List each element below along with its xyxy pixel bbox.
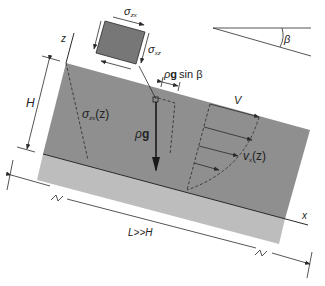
gravity-component-label: ρgsin β — [163, 68, 203, 80]
angle-arc — [280, 28, 283, 47]
element-top-arrow — [113, 17, 144, 25]
velocity-profile-label: vx(z) — [243, 149, 266, 163]
length-tick-right — [307, 252, 312, 278]
break-mark-right — [255, 250, 267, 256]
gravity-label: ρg — [134, 127, 149, 141]
angle-label: β — [283, 33, 291, 45]
z-axis-label: z — [60, 33, 66, 44]
angle-inclined-line — [213, 28, 311, 56]
z-axis-line — [66, 33, 74, 63]
diagram-canvas: x z H L>>H β σzx σxz ρg ρgsin β — [0, 0, 325, 286]
element-side-stress-label: σxz — [148, 43, 161, 56]
element-bottom-arrow — [101, 61, 131, 69]
stress-element — [96, 21, 145, 64]
gravity-component-tick-right — [178, 82, 180, 91]
length-dimension-right — [272, 253, 310, 264]
thickness-tick-top — [42, 56, 60, 61]
thickness-tick-bottom — [17, 147, 35, 152]
shear-stress-profile-label: σzx(z) — [82, 107, 109, 121]
thickness-label: H — [26, 96, 35, 110]
length-label: L>>H — [128, 227, 153, 238]
x-axis-label: x — [301, 210, 308, 221]
surface-velocity-label: V — [234, 94, 243, 106]
element-top-stress-label: σzx — [124, 5, 138, 18]
break-mark-left — [51, 195, 63, 201]
gravity-component-dimension — [162, 82, 178, 86]
